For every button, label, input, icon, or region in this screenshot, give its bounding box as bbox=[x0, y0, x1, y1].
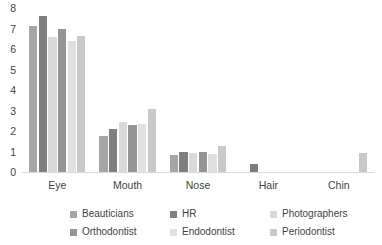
bar-slot bbox=[99, 8, 109, 172]
legend-label: Endodontist bbox=[182, 227, 235, 237]
legend-swatch-icon bbox=[270, 229, 277, 236]
bar-slot bbox=[48, 8, 58, 172]
bar[interactable] bbox=[218, 146, 226, 172]
legend-item[interactable]: Orthodontist bbox=[70, 223, 170, 241]
y-axis-tick: 4 bbox=[10, 85, 16, 96]
y-axis: 876543210 bbox=[0, 8, 20, 172]
bar[interactable] bbox=[199, 152, 207, 173]
bar-slot bbox=[259, 8, 269, 172]
bar[interactable] bbox=[128, 125, 136, 172]
bar-group-bars bbox=[169, 8, 227, 172]
bar-slot bbox=[67, 8, 77, 172]
bar-slot bbox=[310, 8, 320, 172]
bar-slot bbox=[320, 8, 330, 172]
bar-slot bbox=[358, 8, 368, 172]
legend-item[interactable]: HR bbox=[170, 205, 270, 223]
bar[interactable] bbox=[189, 153, 197, 172]
bar-chart: 876543210 EyeMouthNoseHairChin Beauticia… bbox=[0, 0, 382, 245]
legend-item[interactable]: Endodontist bbox=[170, 223, 270, 241]
bar-slot bbox=[28, 8, 38, 172]
bar-slot bbox=[278, 8, 288, 172]
bar-slot bbox=[240, 8, 250, 172]
y-axis-tick: 3 bbox=[10, 105, 16, 116]
bar-slot bbox=[288, 8, 298, 172]
bar-group bbox=[92, 8, 162, 172]
bar-groups bbox=[22, 8, 374, 172]
bar[interactable] bbox=[48, 37, 56, 172]
y-axis-tick: 0 bbox=[10, 167, 16, 178]
bar[interactable] bbox=[77, 36, 85, 172]
legend-label: Photographers bbox=[282, 209, 348, 219]
plot-area bbox=[22, 8, 374, 172]
chart-legend: BeauticiansHRPhotographersOrthodontistEn… bbox=[70, 205, 370, 241]
y-axis-tick: 8 bbox=[10, 3, 16, 14]
bar[interactable] bbox=[58, 29, 66, 173]
bar-slot bbox=[118, 8, 128, 172]
x-axis-labels: EyeMouthNoseHairChin bbox=[22, 175, 374, 195]
legend-swatch-icon bbox=[170, 211, 177, 218]
y-axis-tick: 2 bbox=[10, 126, 16, 137]
bar-group bbox=[22, 8, 92, 172]
bar-group-bars bbox=[310, 8, 368, 172]
legend-swatch-icon bbox=[70, 229, 77, 236]
x-axis-label: Mouth bbox=[92, 175, 162, 195]
legend-item[interactable]: Beauticians bbox=[70, 205, 170, 223]
y-axis-tick: 6 bbox=[10, 44, 16, 55]
bar-slot bbox=[169, 8, 179, 172]
legend-label: Beauticians bbox=[82, 209, 134, 219]
bar-slot bbox=[137, 8, 147, 172]
bar-slot bbox=[76, 8, 86, 172]
bar[interactable] bbox=[148, 109, 156, 172]
legend-swatch-icon bbox=[270, 211, 277, 218]
y-axis-tick: 1 bbox=[10, 146, 16, 157]
bar-group bbox=[163, 8, 233, 172]
x-axis-label: Nose bbox=[163, 175, 233, 195]
bar[interactable] bbox=[208, 154, 216, 172]
legend-swatch-icon bbox=[170, 229, 177, 236]
bar[interactable] bbox=[359, 153, 367, 172]
bar-slot bbox=[57, 8, 67, 172]
bar[interactable] bbox=[170, 155, 178, 172]
bar-slot bbox=[268, 8, 278, 172]
y-axis-tick: 7 bbox=[10, 23, 16, 34]
bar-slot bbox=[329, 8, 339, 172]
bar[interactable] bbox=[250, 164, 258, 172]
bar-slot bbox=[198, 8, 208, 172]
bar-slot bbox=[128, 8, 138, 172]
bar-slot bbox=[38, 8, 48, 172]
bar-slot bbox=[217, 8, 227, 172]
bar-slot bbox=[147, 8, 157, 172]
bar-slot bbox=[179, 8, 189, 172]
bar-slot bbox=[249, 8, 259, 172]
bar[interactable] bbox=[138, 124, 146, 172]
bar[interactable] bbox=[68, 41, 76, 172]
bar-group-bars bbox=[99, 8, 157, 172]
bar-slot bbox=[188, 8, 198, 172]
bar-slot bbox=[208, 8, 218, 172]
bar[interactable] bbox=[39, 16, 47, 172]
x-axis-line bbox=[22, 172, 374, 173]
x-axis-label: Eye bbox=[22, 175, 92, 195]
bar[interactable] bbox=[29, 26, 37, 172]
bar-slot bbox=[348, 8, 358, 172]
bar-group-bars bbox=[240, 8, 298, 172]
legend-item[interactable]: Periodontist bbox=[270, 223, 370, 241]
bar-group bbox=[233, 8, 303, 172]
bar[interactable] bbox=[99, 136, 107, 172]
bar[interactable] bbox=[109, 129, 117, 172]
bar-slot bbox=[108, 8, 118, 172]
legend-label: Periodontist bbox=[282, 227, 335, 237]
legend-item[interactable]: Photographers bbox=[270, 205, 370, 223]
bar-group-bars bbox=[28, 8, 86, 172]
legend-label: HR bbox=[182, 209, 196, 219]
legend-swatch-icon bbox=[70, 211, 77, 218]
bar[interactable] bbox=[179, 152, 187, 173]
x-axis-label: Chin bbox=[304, 175, 374, 195]
legend-label: Orthodontist bbox=[82, 227, 136, 237]
x-axis-label: Hair bbox=[233, 175, 303, 195]
bar[interactable] bbox=[119, 122, 127, 172]
y-axis-tick: 5 bbox=[10, 64, 16, 75]
bar-group bbox=[304, 8, 374, 172]
bar-slot bbox=[339, 8, 349, 172]
